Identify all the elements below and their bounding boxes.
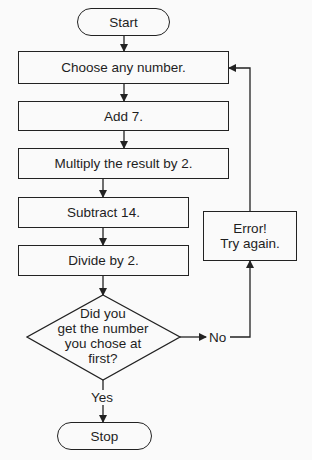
yes-label: Yes bbox=[91, 390, 113, 405]
step-choose-number: Choose any number. bbox=[18, 51, 229, 84]
line-error-to-step1 bbox=[229, 68, 250, 211]
line-no-to-error bbox=[230, 261, 250, 337]
decision-line: Did you bbox=[48, 306, 158, 321]
start-label: Start bbox=[109, 15, 138, 30]
error-box: Error! Try again. bbox=[203, 211, 297, 261]
step-label: Multiply the result by 2. bbox=[54, 156, 192, 171]
decision-line: you chose at bbox=[48, 336, 158, 351]
start-terminal: Start bbox=[77, 8, 170, 36]
step-subtract-fourteen: Subtract 14. bbox=[18, 197, 189, 228]
error-line: Try again. bbox=[220, 236, 280, 251]
stop-terminal: Stop bbox=[57, 422, 152, 450]
decision-line: get the number bbox=[48, 321, 158, 336]
step-multiply-by-two: Multiply the result by 2. bbox=[18, 148, 229, 179]
step-label: Divide by 2. bbox=[68, 253, 139, 268]
step-add-seven: Add 7. bbox=[18, 101, 229, 131]
step-label: Add 7. bbox=[104, 109, 143, 124]
flowchart: Start Choose any number. Add 7. Multiply… bbox=[0, 0, 312, 460]
no-label: No bbox=[209, 330, 226, 345]
step-divide-by-two: Divide by 2. bbox=[18, 245, 189, 276]
step-label: Subtract 14. bbox=[67, 205, 140, 220]
error-line: Error! bbox=[233, 221, 267, 236]
step-label: Choose any number. bbox=[61, 60, 186, 75]
decision-question: Did you get the number you chose at firs… bbox=[48, 306, 158, 366]
stop-label: Stop bbox=[91, 429, 119, 444]
decision-line: first? bbox=[48, 351, 158, 366]
